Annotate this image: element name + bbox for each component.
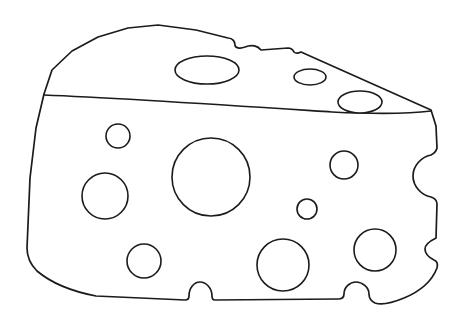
- artboard: Cheese Wedge Line Art: [0, 0, 464, 328]
- top-face-hole-large: [175, 56, 239, 84]
- front-face-hole-mid-left: [82, 173, 128, 219]
- front-face-hole-lower-mid: [257, 239, 309, 291]
- front-face-hole-lower-left: [127, 244, 161, 278]
- front-face-hole-lower-right: [354, 229, 396, 271]
- top-face-hole-right: [338, 91, 382, 113]
- front-face-hole-center-large: [172, 138, 250, 216]
- cheese-wedge-drawing: [0, 0, 464, 328]
- front-face-hole-tiny: [297, 199, 317, 219]
- front-face-hole-mid-right: [330, 151, 358, 179]
- top-face-hole-small: [294, 69, 326, 85]
- front-face-hole-upper-left: [106, 124, 130, 148]
